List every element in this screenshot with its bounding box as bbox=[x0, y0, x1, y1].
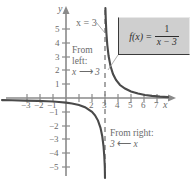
y-tick-label-5: 5 bbox=[55, 25, 60, 34]
from-right-variable: x bbox=[134, 139, 138, 149]
formula-denominator: x − 3 bbox=[155, 38, 179, 48]
y-tick-label-4: 4 bbox=[55, 39, 60, 48]
y-tick-label--2: −2 bbox=[49, 122, 59, 131]
y-axis-label: y bbox=[58, 4, 62, 14]
y-tick-label--4: −4 bbox=[49, 149, 59, 158]
formula-equals-sign: = bbox=[146, 31, 152, 42]
x-tick-label-4: 4 bbox=[115, 101, 120, 110]
x-axis-label: x bbox=[163, 100, 167, 110]
formula-numerator: 1 bbox=[161, 25, 172, 35]
y-axis bbox=[63, 6, 70, 176]
from-right-value: 3 bbox=[110, 139, 115, 149]
from-right-arrow-icon: ⟵ bbox=[117, 139, 131, 149]
y-tick-label-3: 3 bbox=[55, 53, 60, 62]
y-tick-label--1: −1 bbox=[49, 108, 59, 117]
rational-function-figure: y x −3 −2 −1 2 3 4 5 6 7 5 4 3 2 1 −1 −2… bbox=[0, 0, 195, 182]
formula-content: f(x) = 1 x − 3 bbox=[119, 18, 189, 54]
from-left-variable: x bbox=[72, 67, 76, 77]
formula-callout-box: f(x) = 1 x − 3 bbox=[118, 17, 190, 55]
formula-fraction: 1 x − 3 bbox=[155, 25, 179, 48]
x-tick-label--2: −2 bbox=[34, 101, 44, 110]
from-left-annotation: From left: x ⟶ 3 bbox=[72, 45, 100, 79]
x-tick-label-7: 7 bbox=[154, 101, 159, 110]
from-right-line-2: 3 ⟵ x bbox=[110, 139, 154, 150]
x-tick-label-6: 6 bbox=[141, 101, 146, 110]
asymptote-leader-line bbox=[96, 22, 105, 33]
from-left-arrow-icon: ⟶ bbox=[79, 67, 93, 77]
from-right-annotation: From right: 3 ⟵ x bbox=[110, 128, 154, 150]
x-tick-label-5: 5 bbox=[128, 101, 133, 110]
formula-left-hand-side: f(x) bbox=[129, 31, 143, 42]
y-tick-label-1: 1 bbox=[55, 80, 60, 89]
from-left-value: 3 bbox=[95, 67, 100, 77]
from-right-line-1: From right: bbox=[110, 128, 154, 139]
x-tick-label-3: 3 bbox=[102, 101, 107, 110]
y-tick-label--5: −5 bbox=[49, 163, 59, 172]
y-tick-label-2: 2 bbox=[55, 66, 60, 75]
from-left-line-3: x ⟶ 3 bbox=[72, 67, 100, 78]
x-tick-label-2: 2 bbox=[89, 101, 94, 110]
from-left-line-2: left: bbox=[72, 56, 100, 67]
asymptote-annotation: x = 3 bbox=[76, 17, 97, 29]
x-tick-label--3: −3 bbox=[21, 101, 31, 110]
from-left-line-1: From bbox=[72, 45, 100, 56]
y-tick-label--3: −3 bbox=[49, 135, 59, 144]
